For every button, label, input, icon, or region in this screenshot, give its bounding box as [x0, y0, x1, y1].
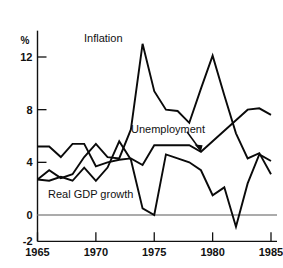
y-axis-tick-label: 4: [11, 157, 33, 168]
series-label-real-gdp-growth: Real GDP growth: [48, 189, 133, 200]
chart-container: % 12840-2 19651970197519801985 Inflation…: [0, 0, 283, 268]
y-axis-tick-label: 12: [11, 52, 33, 63]
series-line-inflation: [38, 44, 272, 180]
x-axis-tick-label: 1970: [74, 247, 118, 258]
x-axis-tick-label: 1975: [132, 247, 176, 258]
x-axis-tick-label: 1980: [191, 247, 235, 258]
series-line-real-gdp-growth: [38, 141, 272, 227]
y-axis-tick-label: 0: [11, 210, 33, 221]
y-axis-unit-label: %: [21, 36, 30, 46]
y-axis-tick-label: 8: [11, 105, 33, 116]
x-axis-tick-label: 1965: [16, 247, 60, 258]
x-axis-tick-label: 1985: [249, 247, 283, 258]
series-label-unemployment: Unemployment: [131, 124, 205, 135]
series-label-inflation: Inflation: [84, 33, 123, 44]
series-line-unemployment: [38, 108, 272, 166]
